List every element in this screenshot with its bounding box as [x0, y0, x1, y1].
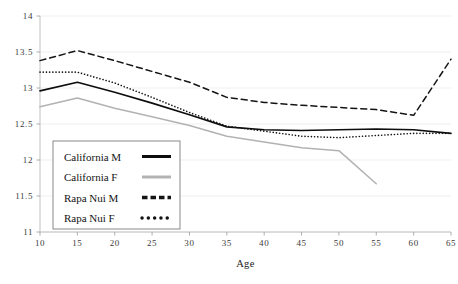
x-tick-label: 25 [147, 238, 157, 248]
x-tick-label: 35 [222, 238, 232, 248]
y-tick-label: 11 [23, 227, 33, 237]
chart-plot-area: 1111.51212.51313.514 1015202530354045505… [0, 0, 458, 284]
series-line-rapa-nui-m [40, 51, 451, 116]
y-tick-label: 12.5 [15, 119, 33, 129]
x-tick-label: 30 [184, 238, 194, 248]
x-axis-title: Age [236, 258, 255, 269]
y-tick-label: 13.5 [15, 47, 33, 57]
y-tick-label: 11.5 [15, 191, 33, 201]
legend-label-california-m: California M [64, 151, 121, 163]
x-tick-label: 65 [446, 238, 456, 248]
line-chart: 1111.51212.51313.514 1015202530354045505… [0, 0, 458, 284]
y-tick-label: 13 [23, 83, 33, 93]
legend-label-california-f: California F [64, 171, 117, 183]
x-tick-label: 15 [72, 238, 82, 248]
x-tick-label: 20 [110, 238, 120, 248]
legend-label-rapa-nui-f: Rapa Nui F [64, 212, 115, 224]
x-tick-label: 60 [409, 238, 419, 248]
series-line-california-m [40, 82, 451, 133]
x-tick-label: 40 [259, 238, 269, 248]
y-tick-label: 14 [23, 11, 33, 21]
x-tick-label: 45 [296, 238, 306, 248]
y-axis-tick-labels: 1111.51212.51313.514 [15, 11, 33, 237]
x-tick-label: 50 [334, 238, 344, 248]
y-tick-label: 12 [23, 155, 33, 165]
legend-label-rapa-nui-m: Rapa Nui M [64, 192, 119, 204]
x-axis-tick-labels: 101520253035404550556065 [35, 238, 456, 248]
x-tick-label: 55 [371, 238, 381, 248]
chart-legend: California MCalifornia FRapa Nui MRapa N… [53, 141, 180, 229]
x-tick-label: 10 [35, 238, 45, 248]
